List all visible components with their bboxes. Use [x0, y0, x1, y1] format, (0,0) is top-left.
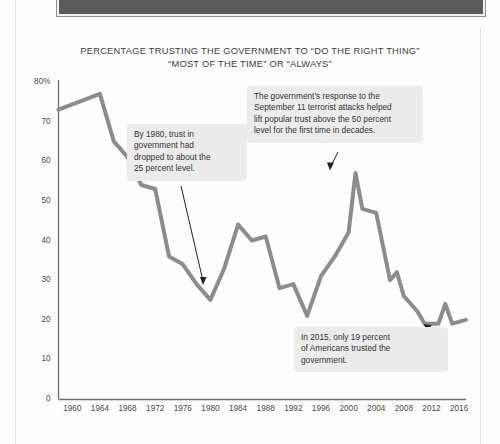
x-tick-1960: 1960 [57, 404, 87, 413]
x-tick-1996: 1996 [306, 404, 336, 413]
y-tick-40: 40 [19, 236, 51, 245]
y-tick-20: 20 [19, 315, 51, 324]
annotation-2001: The government’s response to the Septemb… [247, 86, 423, 143]
x-tick-2000: 2000 [334, 404, 364, 413]
annotation-1980: By 1980, trust in government had dropped… [127, 124, 247, 181]
y-tick-10: 10 [19, 354, 51, 363]
x-tick-1992: 1992 [278, 404, 308, 413]
page-background: PERCENTAGE TRUSTING THE GOVERNMENT TO “D… [0, 0, 500, 444]
x-tick-1988: 1988 [251, 404, 281, 413]
y-tick-0: 0 [19, 394, 51, 403]
x-tick-2004: 2004 [361, 404, 391, 413]
x-tick-1984: 1984 [223, 404, 253, 413]
y-tick-60: 60 [19, 156, 51, 165]
leader-2001-arrow [327, 163, 334, 171]
x-tick-1968: 1968 [113, 404, 143, 413]
x-tick-1980: 1980 [195, 404, 225, 413]
x-tick-2008: 2008 [389, 404, 419, 413]
y-tick-70: 70 [19, 117, 51, 126]
leader-1980-arrow [200, 277, 207, 285]
y-tick-80: 80% [19, 77, 51, 86]
x-tick-2012: 2012 [416, 404, 446, 413]
chart-plot-area [0, 0, 500, 444]
x-tick-2016: 2016 [444, 404, 474, 413]
x-tick-1964: 1964 [85, 404, 115, 413]
x-tick-1976: 1976 [168, 404, 198, 413]
annotation-2015: In 2015, only 19 percent of Americans tr… [294, 327, 448, 372]
x-tick-1972: 1972 [140, 404, 170, 413]
y-tick-50: 50 [19, 196, 51, 205]
y-tick-30: 30 [19, 275, 51, 284]
